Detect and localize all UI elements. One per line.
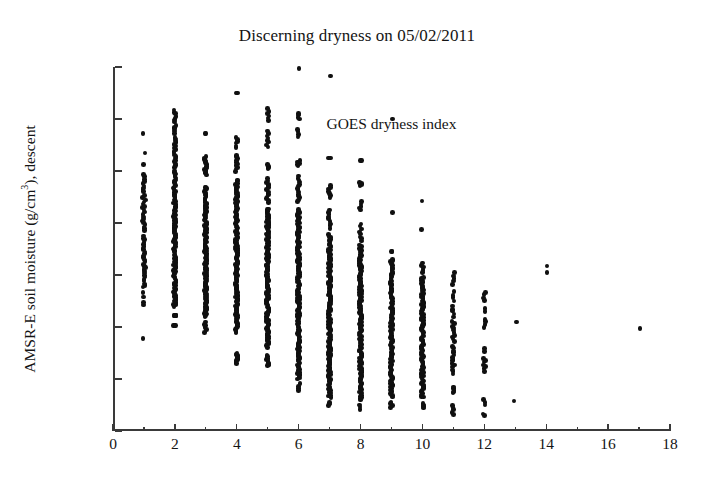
data-point — [328, 74, 333, 79]
y-tick-mark — [115, 170, 122, 171]
data-point — [141, 172, 146, 177]
data-point — [296, 174, 301, 179]
y-tick-mark — [115, 118, 122, 119]
data-point — [234, 135, 239, 140]
x-tick-mark — [236, 424, 237, 431]
scatter-plot-figure: Discerning dryness on 05/02/2011 0.040.0… — [0, 0, 714, 499]
x-minor-tick-mark — [205, 427, 206, 431]
x-minor-tick-mark — [267, 427, 268, 431]
x-minor-tick-mark — [638, 427, 639, 431]
x-tick-mark — [669, 424, 670, 431]
data-point — [235, 91, 240, 96]
data-point — [172, 208, 177, 213]
data-point — [482, 346, 487, 351]
y-tick-mark — [115, 274, 122, 275]
data-point — [450, 344, 455, 349]
x-minor-tick-mark — [391, 427, 392, 431]
data-point — [141, 295, 146, 300]
data-point — [173, 135, 178, 140]
data-point — [483, 306, 488, 311]
data-point — [512, 399, 517, 404]
x-tick-label: 18 — [662, 435, 678, 453]
x-minor-tick-mark — [329, 427, 330, 431]
x-tick-label: 16 — [600, 435, 616, 453]
data-point — [234, 153, 239, 158]
data-point — [390, 249, 395, 254]
data-point — [141, 285, 146, 290]
data-point — [296, 111, 301, 116]
data-point — [357, 403, 362, 408]
data-point — [142, 193, 147, 198]
x-minor-tick-mark — [577, 427, 578, 431]
x-tick-label: 6 — [295, 435, 303, 453]
data-point — [298, 381, 303, 386]
data-point — [265, 176, 270, 181]
x-tick-mark — [422, 424, 423, 431]
y-tick-mark — [115, 326, 122, 327]
data-point — [638, 326, 643, 331]
data-point — [266, 207, 271, 212]
data-point — [545, 270, 550, 275]
x-tick-label: 12 — [477, 435, 493, 453]
data-point — [359, 199, 364, 204]
data-point — [265, 353, 270, 358]
data-point — [545, 264, 550, 269]
data-point — [481, 397, 486, 402]
data-point — [141, 336, 146, 341]
data-point — [327, 400, 332, 405]
x-axis-title: GOES dryness index — [326, 115, 456, 133]
data-point — [204, 300, 209, 305]
x-tick-label: 10 — [415, 435, 431, 453]
y-tick-mark — [115, 222, 122, 223]
chart-title: Discerning dryness on 05/02/2011 — [0, 26, 714, 46]
data-point — [143, 265, 148, 270]
data-point — [203, 320, 208, 325]
x-tick-mark — [546, 424, 547, 431]
data-point — [328, 156, 333, 161]
data-point — [172, 169, 177, 174]
y-tick-mark — [115, 430, 122, 431]
data-point — [141, 300, 146, 305]
x-minor-tick-mark — [143, 427, 144, 431]
data-point — [420, 199, 425, 204]
data-point — [451, 385, 456, 390]
data-point — [452, 270, 457, 275]
data-point — [296, 207, 301, 212]
data-point — [358, 158, 363, 163]
y-axis-spine — [113, 67, 115, 431]
x-tick-mark — [112, 424, 113, 431]
data-point — [420, 261, 425, 266]
data-point — [143, 151, 148, 156]
data-point — [481, 356, 486, 361]
y-tick-mark — [115, 66, 122, 67]
x-minor-tick-mark — [453, 427, 454, 431]
data-point — [419, 227, 424, 232]
data-point — [265, 162, 270, 167]
data-point — [203, 131, 208, 136]
x-tick-label: 14 — [538, 435, 554, 453]
data-point — [141, 162, 146, 167]
data-point — [483, 290, 488, 295]
data-point — [265, 106, 270, 111]
x-tick-mark — [360, 424, 361, 431]
data-point — [450, 282, 455, 287]
data-point — [450, 304, 455, 309]
x-tick-mark — [174, 424, 175, 431]
data-point — [297, 66, 302, 71]
x-tick-label: 8 — [357, 435, 365, 453]
data-point — [327, 208, 332, 213]
data-point — [204, 154, 209, 159]
x-tick-label: 2 — [171, 435, 179, 453]
x-tick-mark — [298, 424, 299, 431]
data-point — [173, 323, 178, 328]
data-point — [174, 313, 179, 318]
plot-area: 0.040.060.080.10.120.140.160.18 02468101… — [113, 67, 670, 431]
data-point — [421, 275, 426, 280]
data-point — [295, 127, 300, 132]
x-tick-mark — [484, 424, 485, 431]
data-point — [390, 257, 395, 262]
data-point — [326, 232, 331, 237]
data-point — [328, 183, 333, 188]
data-point — [141, 131, 146, 136]
x-tick-mark — [607, 424, 608, 431]
